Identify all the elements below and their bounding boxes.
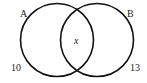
set-b-circle (61, 4, 134, 77)
set-b-only-value: 13 (130, 62, 140, 73)
venn-diagram: A B 10 13 x (0, 0, 147, 83)
set-a-only-value: 10 (11, 62, 21, 73)
set-b-label: B (127, 8, 134, 19)
intersection-value: x (73, 35, 79, 46)
set-a-circle (21, 4, 94, 77)
set-a-label: A (20, 8, 28, 19)
